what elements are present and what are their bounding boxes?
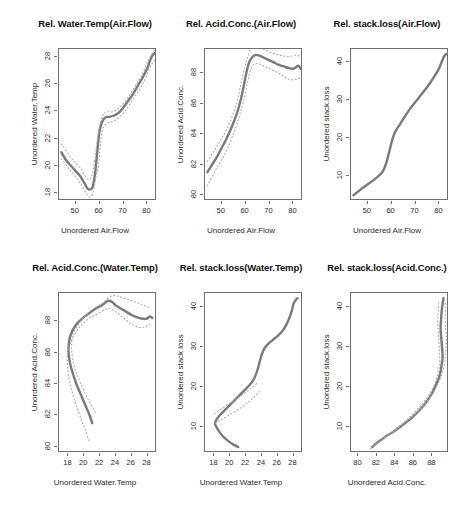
x-tick-mark xyxy=(67,453,68,456)
x-axis-label: Unordered Air.Flow xyxy=(168,226,314,235)
plot-panel-1: Rel. Water.Temp(Air.Flow)506070801820222… xyxy=(22,18,168,262)
x-tick-label: 28 xyxy=(288,458,296,467)
y-tick-label: 18 xyxy=(43,188,52,196)
series-transform xyxy=(215,298,297,447)
y-tick-label: 40 xyxy=(189,302,198,310)
y-tick-label: 10 xyxy=(335,422,344,430)
x-tick-mark xyxy=(357,453,358,456)
panel-title: Rel. stack.loss(Air.Flow) xyxy=(314,18,460,29)
x-tick-label: 50 xyxy=(71,206,79,215)
series-lower-band xyxy=(370,303,439,449)
panel-title: Rel. Water.Temp(Air.Flow) xyxy=(22,18,168,29)
y-tick-label: 86 xyxy=(189,99,198,107)
y-tick-label: 88 xyxy=(189,68,198,76)
series-upper-band xyxy=(375,301,446,444)
y-tick-mark xyxy=(200,346,203,347)
x-tick-mark xyxy=(292,201,293,204)
y-tick-label: 20 xyxy=(335,382,344,390)
curve-canvas xyxy=(205,49,303,201)
y-tick-mark xyxy=(54,192,57,193)
x-tick-label: 86 xyxy=(409,458,417,467)
plot-panel-5: Rel. stack.loss(Water.Temp)1820222426281… xyxy=(168,262,314,514)
y-tick-label: 10 xyxy=(189,422,198,430)
x-tick-label: 18 xyxy=(209,458,217,467)
x-tick-label: 20 xyxy=(225,458,233,467)
x-tick-mark xyxy=(147,453,148,456)
series-lower-band xyxy=(207,64,300,186)
x-tick-mark xyxy=(438,201,439,204)
plot-panel-2: Rel. Acid.Conc.(Air.Flow)506070808082848… xyxy=(168,18,314,262)
panel-title: Rel. stack.loss(Water.Temp) xyxy=(168,262,314,273)
x-tick-mark xyxy=(413,453,414,456)
panel-title: Rel. Acid.Conc.(Air.Flow) xyxy=(168,18,314,29)
plot-box xyxy=(58,292,156,452)
y-tick-mark xyxy=(54,414,57,415)
y-tick-label: 40 xyxy=(335,57,344,65)
plot-panel-6: Rel. stack.loss(Acid.Conc.)8082848688102… xyxy=(314,262,460,514)
x-tick-mark xyxy=(115,453,116,456)
y-tick-label: 82 xyxy=(189,159,198,167)
y-tick-label: 80 xyxy=(189,190,198,198)
series-lower-band xyxy=(67,309,150,441)
y-tick-mark xyxy=(346,426,349,427)
y-axis-label: Unordered stack.loss xyxy=(322,86,331,161)
y-tick-label: 82 xyxy=(43,410,52,418)
y-tick-mark xyxy=(54,383,57,384)
curve-canvas xyxy=(205,293,303,453)
x-tick-mark xyxy=(229,453,230,456)
x-tick-mark xyxy=(415,201,416,204)
y-tick-mark xyxy=(200,386,203,387)
x-tick-mark xyxy=(269,201,270,204)
x-tick-label: 18 xyxy=(63,458,71,467)
plot-box xyxy=(204,292,302,452)
x-tick-label: 20 xyxy=(79,458,87,467)
y-tick-mark xyxy=(54,165,57,166)
plot-box xyxy=(350,292,448,452)
y-tick-label: 10 xyxy=(335,171,344,179)
x-tick-label: 50 xyxy=(363,206,371,215)
x-tick-mark xyxy=(131,453,132,456)
x-axis-label: Unordered Water.Temp xyxy=(168,478,314,487)
y-axis-label: Unordered Acid.Conc. xyxy=(30,333,39,411)
y-tick-mark xyxy=(54,352,57,353)
y-axis-label: Unordered Water.Temp xyxy=(30,83,39,165)
x-tick-label: 70 xyxy=(264,206,272,215)
x-tick-mark xyxy=(261,453,262,456)
plot-box xyxy=(204,48,302,200)
x-tick-label: 24 xyxy=(257,458,265,467)
x-tick-mark xyxy=(146,201,147,204)
series-transform xyxy=(207,55,300,172)
plot-box xyxy=(58,48,156,200)
x-tick-mark xyxy=(277,453,278,456)
x-tick-mark xyxy=(367,201,368,204)
y-tick-mark xyxy=(346,175,349,176)
curve-canvas xyxy=(59,293,157,453)
x-axis-label: Unordered Air.Flow xyxy=(314,226,460,235)
x-tick-label: 70 xyxy=(118,206,126,215)
y-axis-label: Unordered Acid.Conc. xyxy=(176,85,185,163)
x-tick-mark xyxy=(99,201,100,204)
x-tick-mark xyxy=(99,453,100,456)
y-tick-label: 80 xyxy=(43,442,52,450)
y-tick-mark xyxy=(346,346,349,347)
plot-box xyxy=(350,48,448,200)
x-tick-label: 70 xyxy=(410,206,418,215)
x-tick-label: 28 xyxy=(142,458,150,467)
curve-canvas xyxy=(351,49,449,201)
x-tick-label: 22 xyxy=(95,458,103,467)
x-tick-label: 82 xyxy=(372,458,380,467)
x-tick-label: 26 xyxy=(273,458,281,467)
y-tick-label: 84 xyxy=(189,129,198,137)
x-tick-mark xyxy=(221,201,222,204)
y-tick-label: 20 xyxy=(189,382,198,390)
x-axis-label: Unordered Air.Flow xyxy=(22,226,168,235)
y-tick-mark xyxy=(200,306,203,307)
y-tick-mark xyxy=(54,110,57,111)
y-tick-label: 20 xyxy=(43,161,52,169)
series-transform xyxy=(353,54,446,195)
y-tick-label: 88 xyxy=(43,316,52,324)
y-tick-label: 20 xyxy=(335,133,344,141)
y-tick-mark xyxy=(200,133,203,134)
x-tick-label: 80 xyxy=(353,458,361,467)
y-tick-label: 22 xyxy=(43,133,52,141)
